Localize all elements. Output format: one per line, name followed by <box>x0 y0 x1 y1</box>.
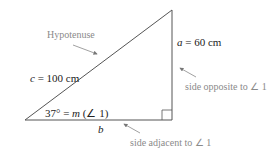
hypotenuse-annotation: Hypotenuse <box>47 29 95 40</box>
triangle <box>25 10 172 120</box>
opposite-annotation: side opposite to ∠ 1 <box>185 81 267 92</box>
right-angle-marker <box>162 110 172 120</box>
adjacent-arrow <box>124 124 140 133</box>
hypotenuse-arrow <box>73 45 97 54</box>
opposite-length-label: a = 60 cm <box>177 36 222 48</box>
adjacent-annotation: side adjacent to ∠ 1 <box>130 137 211 148</box>
opposite-arrow <box>180 68 196 77</box>
hypotenuse-length-label: c = 100 cm <box>30 72 80 84</box>
adjacent-length-label: b <box>98 123 104 135</box>
right-triangle-diagram: Hypotenuse c = 100 cm a = 60 cm 37° = m … <box>0 0 277 156</box>
angle-label: 37° = m (∠ 1) <box>45 107 109 120</box>
